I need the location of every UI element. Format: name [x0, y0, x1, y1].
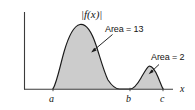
figure-container: |f(x)| Area = 13 Area = 2 a b c x [0, 0, 195, 110]
area-13-label: Area = 13 [105, 25, 143, 34]
x-tick-label-c: c [160, 94, 164, 104]
x-tick-label-b: b [126, 94, 131, 104]
area-2-label: Area = 2 [151, 53, 184, 62]
x-axis-label: x [180, 84, 184, 94]
x-tick-label-a: a [49, 94, 54, 104]
function-label: |f(x)| [81, 9, 102, 20]
